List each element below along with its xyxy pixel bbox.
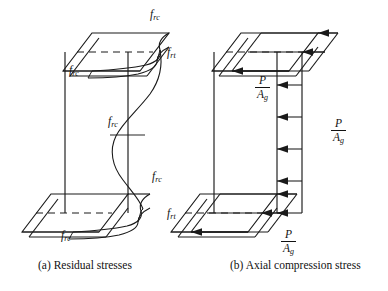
label-bottom-flange-inner-frc: frc	[61, 226, 71, 243]
panel-a-residual-stresses	[22, 33, 169, 239]
web-arrow-4	[277, 177, 302, 185]
panel-b-web-arrows[interactable]	[277, 81, 302, 217]
label-web-mid-frc: frc	[108, 112, 118, 129]
panel-b-bottom-flange	[171, 194, 277, 237]
arrow-bottom-back	[277, 190, 297, 198]
arrow-bottom-front	[191, 228, 248, 236]
label-top-flange-stress-fraction: P Ag	[255, 74, 270, 103]
label-web-stress-fraction: P Ag	[331, 117, 346, 146]
panel-b-axial-compression-stress	[171, 29, 338, 237]
web-arrow-3	[277, 145, 302, 153]
label-top-flange-tip-frc: frc	[150, 5, 160, 22]
stress-diagram-svg	[0, 0, 388, 291]
figure-root: frc frt frc frc frc frt frc P Ag P Ag P …	[0, 0, 388, 291]
label-bottom-flange-junction-frt: frt	[167, 204, 176, 221]
caption-panel-b: (b) Axial compression stress	[230, 259, 361, 271]
label-top-flange-inner-frc: frc	[69, 61, 79, 78]
label-top-flange-junction-frt: frt	[167, 43, 176, 60]
panel-a-web-stress-curve	[110, 50, 161, 209]
label-bottom-flange-stress-fraction: P Ag	[281, 228, 296, 257]
web-arrow-2	[277, 113, 302, 121]
label-bottom-flange-tip-frc: frc	[152, 167, 162, 184]
web-arrow-1	[277, 81, 302, 89]
caption-panel-a: (a) Residual stresses	[38, 259, 132, 271]
arrow-top-back	[318, 29, 338, 37]
